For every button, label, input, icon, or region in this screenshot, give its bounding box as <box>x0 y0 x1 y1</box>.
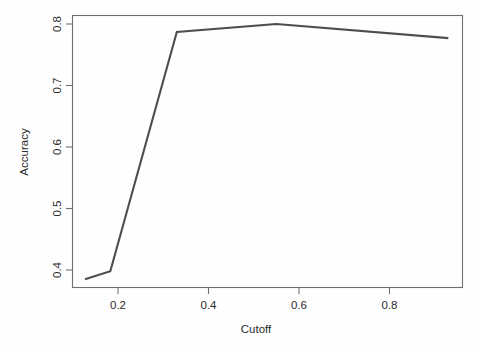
accuracy-series-line <box>85 24 448 279</box>
y-tick-label-4: 0.8 <box>51 16 63 32</box>
x-tick-label-1: 0.4 <box>201 299 218 311</box>
x-tick-label-2: 0.6 <box>291 299 307 311</box>
x-axis-ticks <box>118 288 390 294</box>
y-tick-label-3: 0.7 <box>51 78 63 94</box>
x-tick-label-3: 0.8 <box>382 299 398 311</box>
x-axis-tick-labels: 0.2 0.4 0.6 0.8 <box>110 299 398 311</box>
accuracy-vs-cutoff-line-chart: 0.8 0.7 0.6 0.5 0.4 0.2 0.4 0.6 0.8 Cuto… <box>0 0 483 350</box>
x-axis-title: Cutoff <box>241 323 272 335</box>
y-axis-tick-labels: 0.8 0.7 0.6 0.5 0.4 <box>51 16 63 278</box>
y-tick-label-2: 0.6 <box>51 139 63 155</box>
chart-figure: 0.8 0.7 0.6 0.5 0.4 0.2 0.4 0.6 0.8 Cuto… <box>0 0 483 350</box>
y-axis-title: Accuracy <box>18 128 30 176</box>
y-axis-ticks <box>66 24 72 270</box>
y-tick-label-1: 0.5 <box>51 201 63 217</box>
plot-frame <box>73 16 463 288</box>
x-tick-label-0: 0.2 <box>110 299 126 311</box>
y-tick-label-0: 0.4 <box>51 261 63 278</box>
